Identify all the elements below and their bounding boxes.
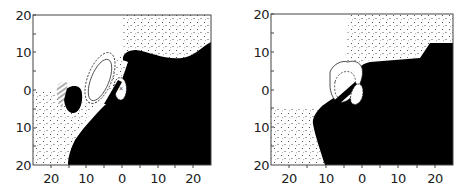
left-ytick-label: 10 [15,120,31,135]
left-xtick-label: 0 [118,171,126,186]
right-xtick-label: 0 [358,171,366,186]
right-xtick-label: 10 [390,171,406,186]
right-xtick-label: 20 [281,171,297,186]
figure: × 20 10 0 10 20 20 [0,0,465,195]
left-panel: × 20 10 0 10 20 20 [15,8,211,186]
left-xtick-label: 10 [78,171,94,186]
left-xtick-label: 10 [150,171,166,186]
right-ytick-label: 20 [253,158,269,173]
left-ytick-label: 10 [15,45,31,60]
right-xtick-label: 20 [427,171,443,186]
left-ytick-label: 20 [15,8,31,23]
right-ytick-label: 10 [253,45,269,60]
left-xtick-label: 20 [185,171,201,186]
right-ytick-label: 10 [253,120,269,135]
right-panel: 20 10 0 10 20 20 10 0 10 20 [253,7,453,186]
right-ytick-label: 20 [253,7,269,22]
right-ytick-label: 0 [261,83,269,98]
right-xtick-label: 10 [318,171,334,186]
left-xtick-label: 20 [43,171,59,186]
left-ytick-label: 20 [15,158,31,173]
left-ytick-label: 0 [23,83,31,98]
